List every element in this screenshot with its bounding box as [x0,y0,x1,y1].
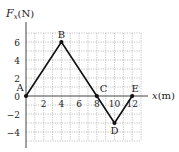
point-c [95,94,99,98]
y-tick-label: 0 [14,92,20,102]
y-axis-label: Fx(N) [5,7,34,21]
grid [26,33,141,141]
x-tick-label: 12 [126,99,137,109]
point-e [130,94,134,98]
point-label-e: E [132,83,139,94]
point-a [24,94,28,98]
point-label-c: C [100,83,108,94]
x-axis-label: x(m) [152,90,175,101]
y-tick-label: 6 [14,38,20,48]
force-position-chart: 24681012−4−20246 ABCDE Fx(N) x(m) [0,0,179,152]
point-b [59,40,63,44]
y-tick-label: 4 [14,56,20,66]
x-tick-label: 10 [109,99,121,109]
y-tick-label: −2 [7,110,20,120]
y-tick-label: −4 [7,128,21,138]
x-tick-label: 2 [41,99,47,109]
point-label-b: B [58,29,65,40]
x-tick-label: 6 [76,99,82,109]
point-label-a: A [15,82,24,93]
axes [26,22,148,148]
point-label-d: D [110,125,118,136]
x-tick-label: 4 [59,99,65,109]
